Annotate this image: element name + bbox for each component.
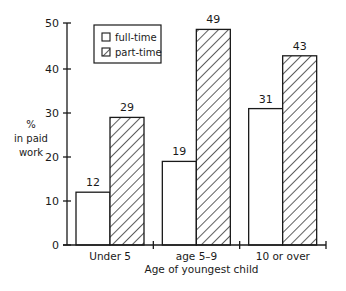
x-tick-label: Under 5 xyxy=(89,250,131,262)
x-axis-label: Age of youngest child xyxy=(144,263,258,275)
y-axis-label: % xyxy=(26,119,36,130)
y-tick-label: 40 xyxy=(45,63,59,76)
legend-label: part-time xyxy=(115,47,162,58)
y-axis-label: work xyxy=(19,147,43,158)
bar-part-time-1 xyxy=(196,29,230,245)
legend-label: full-time xyxy=(115,32,157,43)
bar-chart: full-timepart-time 1229Under 51949age 5–… xyxy=(0,0,346,291)
y-tick-label: 0 xyxy=(52,239,59,252)
bar-full-time-0 xyxy=(76,192,110,245)
data-label: 49 xyxy=(206,13,220,26)
bar-full-time-1 xyxy=(162,161,196,245)
y-tick-label: 50 xyxy=(45,17,59,30)
legend: full-timepart-time xyxy=(94,25,162,63)
bar-part-time-2 xyxy=(283,56,317,245)
y-tick-label: 30 xyxy=(45,107,59,120)
x-tick-label: age 5–9 xyxy=(176,250,218,262)
y-axis-label: in paid xyxy=(14,133,48,144)
chart-canvas: full-timepart-time 1229Under 51949age 5–… xyxy=(0,0,346,291)
data-label: 29 xyxy=(120,101,134,114)
y-tick-label: 10 xyxy=(45,195,59,208)
bar-full-time-2 xyxy=(249,109,283,245)
data-label: 43 xyxy=(293,40,307,53)
legend-swatch-full-time xyxy=(102,33,110,41)
bar-part-time-0 xyxy=(110,117,144,245)
x-tick-label: 10 or over xyxy=(256,250,311,262)
data-label: 12 xyxy=(86,176,100,189)
y-tick-label: 20 xyxy=(45,151,59,164)
data-label: 19 xyxy=(172,145,186,158)
data-label: 31 xyxy=(259,93,273,106)
legend-swatch-part-time xyxy=(102,48,110,56)
